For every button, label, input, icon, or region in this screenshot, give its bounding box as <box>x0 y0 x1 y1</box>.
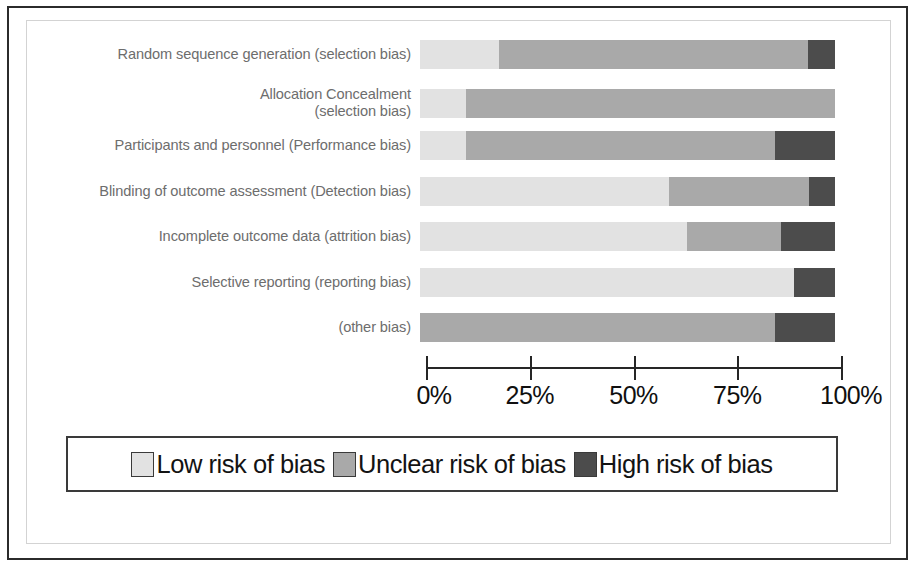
legend-label: Unclear risk of bias <box>358 450 566 479</box>
bar-segment-low-risk <box>420 177 669 206</box>
bar-row-label: Selective reporting (reporting bias) <box>44 274 420 291</box>
legend-label: Low risk of bias <box>156 450 325 479</box>
bar-row-label: (other bias) <box>44 319 420 336</box>
bar-track <box>420 177 835 206</box>
bar-segment-unclear-risk <box>669 177 809 206</box>
bar-row-label: Participants and personnel (Performance … <box>44 137 420 154</box>
x-axis-tick <box>530 356 532 380</box>
bar-segment-unclear-risk <box>687 222 781 251</box>
x-axis-tick <box>737 356 739 380</box>
bar-row: Blinding of outcome assessment (Detectio… <box>44 177 844 206</box>
bar-row: (other bias) <box>44 313 844 342</box>
bar-segment-unclear-risk <box>466 131 775 160</box>
legend-item: Low risk of bias <box>131 450 325 479</box>
x-axis-tick <box>426 356 428 380</box>
bar-row: Selective reporting (reporting bias) <box>44 268 844 297</box>
bar-segment-unclear-risk <box>420 313 775 342</box>
bar-row: Random sequence generation (selection bi… <box>44 40 844 69</box>
bar-segment-high-risk <box>775 313 835 342</box>
bar-segment-high-risk <box>781 222 835 251</box>
risk-of-bias-figure: Random sequence generation (selection bi… <box>0 0 918 573</box>
bar-row-label: Allocation Concealment (selection bias) <box>44 86 420 120</box>
bar-row-label: Random sequence generation (selection bi… <box>44 46 420 63</box>
x-axis-tick <box>841 356 843 380</box>
bar-segment-low-risk <box>420 40 499 69</box>
x-axis-tick-label: 25% <box>505 381 554 410</box>
legend-item: Unclear risk of bias <box>333 450 566 479</box>
bar-segment-high-risk <box>775 131 835 160</box>
x-axis-tick-label: 0% <box>416 381 451 410</box>
x-axis-tick-label: 50% <box>609 381 658 410</box>
bar-segment-high-risk <box>808 40 835 69</box>
bar-segment-low-risk <box>420 89 466 118</box>
bar-row-label: Incomplete outcome data (attrition bias) <box>44 228 420 245</box>
legend-swatch-icon <box>574 452 597 477</box>
bar-track <box>420 131 835 160</box>
bar-segment-unclear-risk <box>499 40 808 69</box>
legend-swatch-icon <box>131 452 154 477</box>
bar-track <box>420 222 835 251</box>
legend-label: High risk of bias <box>599 450 773 479</box>
bar-track <box>420 40 835 69</box>
bar-track <box>420 313 835 342</box>
bar-segment-low-risk <box>420 131 466 160</box>
bar-segment-unclear-risk <box>466 89 835 118</box>
x-axis: 0%25%50%75%100% <box>420 355 848 415</box>
bar-segment-high-risk <box>809 177 835 206</box>
bar-row: Allocation Concealment (selection bias) <box>44 86 844 120</box>
bar-segment-high-risk <box>794 268 836 297</box>
bar-row: Participants and personnel (Performance … <box>44 131 844 160</box>
x-axis-tick-label: 100% <box>820 381 882 410</box>
bar-row: Incomplete outcome data (attrition bias) <box>44 222 844 251</box>
bar-segment-low-risk <box>420 222 687 251</box>
bar-track <box>420 89 835 118</box>
x-axis-tick-label: 75% <box>713 381 762 410</box>
bar-track <box>420 268 835 297</box>
bar-row-label: Blinding of outcome assessment (Detectio… <box>44 183 420 200</box>
bar-segment-low-risk <box>420 268 794 297</box>
legend-swatch-icon <box>333 452 356 477</box>
x-axis-tick <box>634 356 636 380</box>
legend-item: High risk of bias <box>574 450 773 479</box>
legend: Low risk of biasUnclear risk of biasHigh… <box>66 436 838 492</box>
